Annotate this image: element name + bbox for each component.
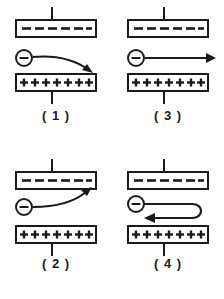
panel-1: ( 1 ) [0,0,112,150]
straight-right-arrow [145,53,216,63]
panel-1-label: ( 1 ) [0,108,112,123]
curve-down-right-arrow [33,57,93,73]
positive-plate-charges [132,79,205,87]
positive-plate-charges [20,79,93,87]
panel-4-label: ( 4 ) [112,256,224,271]
electron-symbol [128,196,144,212]
electron-symbol [16,50,32,66]
positive-plate-charges [20,231,93,239]
panel-1-diagram [0,0,112,150]
panel-2-label: ( 2 ) [0,256,112,271]
figure-grid: ( 1 ) [0,0,224,299]
electron-symbol [16,199,32,215]
u-turn-left-arrow [144,204,201,223]
electron-symbol [128,50,144,66]
positive-plate-charges [132,231,205,239]
panel-3: ( 3 ) [112,0,224,150]
panel-3-diagram [112,0,224,150]
panel-4: ( 4 ) [112,150,224,299]
panel-2: ( 2 ) [0,150,112,299]
panel-4-diagram [112,150,224,299]
panel-2-diagram [0,150,112,299]
panel-3-label: ( 3 ) [112,108,224,123]
